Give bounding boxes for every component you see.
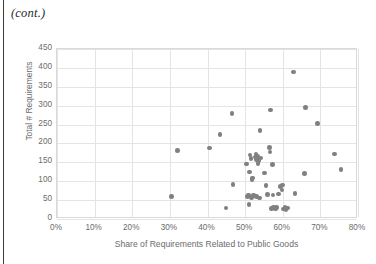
x-tick-label: 40%	[187, 224, 227, 232]
gridline-vertical	[358, 49, 359, 217]
y-tick-label: 400	[12, 63, 52, 71]
x-tick-label: 30%	[149, 224, 189, 232]
y-tick-label: 200	[12, 138, 52, 146]
y-tick-label: 0	[12, 214, 52, 222]
gridline-horizontal	[57, 181, 356, 182]
scatter-chart: Total # Requirements Share of Requiremen…	[0, 36, 376, 264]
x-tick-label: 0%	[36, 224, 76, 232]
data-point	[291, 70, 296, 75]
data-point	[270, 162, 275, 167]
y-tick-label: 300	[12, 101, 52, 109]
gridline-vertical	[170, 49, 171, 217]
gridline-vertical	[57, 49, 58, 217]
data-point	[274, 205, 279, 210]
x-tick-label: 50%	[224, 224, 264, 232]
data-point	[259, 156, 264, 161]
data-point	[332, 152, 337, 157]
data-point	[293, 191, 298, 196]
x-tick-label: 80%	[337, 224, 376, 232]
data-point	[169, 194, 174, 199]
data-point	[247, 202, 252, 207]
data-point	[264, 183, 269, 188]
gridline-vertical	[283, 49, 284, 217]
data-point	[271, 193, 276, 198]
gridline-vertical	[95, 49, 96, 217]
data-point	[302, 171, 307, 176]
gridline-vertical	[132, 49, 133, 217]
x-tick-label: 20%	[111, 224, 151, 232]
gridline-vertical	[208, 49, 209, 217]
gridline-horizontal	[57, 162, 356, 163]
gridline-horizontal	[57, 87, 356, 88]
data-point	[258, 128, 263, 133]
data-point	[244, 162, 249, 167]
data-point	[285, 206, 290, 211]
x-axis-title: Share of Requirements Related to Public …	[56, 239, 357, 249]
data-point	[175, 148, 180, 153]
data-point	[250, 176, 255, 181]
data-point	[315, 121, 320, 126]
data-point	[207, 146, 212, 151]
gridline-vertical	[320, 49, 321, 217]
data-point	[268, 150, 273, 155]
y-tick-label: 150	[12, 157, 52, 165]
data-point	[231, 182, 236, 187]
y-tick-label: 450	[12, 44, 52, 52]
data-point	[339, 167, 344, 172]
y-tick-label: 350	[12, 82, 52, 90]
data-point	[276, 192, 281, 197]
y-tick-label: 100	[12, 176, 52, 184]
y-tick-label: 250	[12, 120, 52, 128]
continuation-note: (cont.)	[11, 6, 45, 21]
plot-area	[56, 48, 357, 218]
gridline-horizontal	[57, 68, 356, 69]
data-point	[268, 108, 273, 113]
data-point	[280, 183, 285, 188]
gridline-horizontal	[57, 106, 356, 107]
gridline-horizontal	[57, 200, 356, 201]
data-point	[303, 105, 308, 110]
gridline-horizontal	[57, 125, 356, 126]
x-tick-label: 10%	[74, 224, 114, 232]
data-point	[262, 171, 267, 176]
data-point	[265, 192, 270, 197]
gridline-horizontal	[57, 143, 356, 144]
x-tick-label: 60%	[262, 224, 302, 232]
data-point	[218, 132, 223, 137]
data-point	[230, 111, 235, 116]
gridline-horizontal	[57, 219, 356, 220]
gridline-vertical	[245, 49, 246, 217]
data-point	[257, 196, 262, 201]
gridline-horizontal	[57, 49, 356, 50]
data-point	[224, 206, 229, 211]
x-tick-label: 70%	[299, 224, 339, 232]
y-tick-label: 50	[12, 195, 52, 203]
data-point	[247, 170, 252, 175]
